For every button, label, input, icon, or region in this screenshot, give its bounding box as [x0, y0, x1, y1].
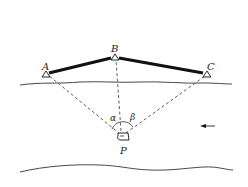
- baseline-bc: [119, 58, 203, 73]
- observer-label-p: P: [119, 145, 127, 156]
- sight-line-pc: [126, 76, 205, 133]
- station-label-c: C: [207, 61, 215, 72]
- station-label-b: B: [110, 43, 118, 54]
- sight-lines: [48, 60, 205, 134]
- lower-riverbank: [20, 165, 233, 172]
- sight-line-pa: [48, 75, 120, 134]
- boat-icon: [118, 133, 129, 140]
- angle-label-beta: β: [129, 112, 135, 122]
- station-markers: [42, 54, 211, 77]
- angle-label-alpha: α: [110, 113, 116, 123]
- upper-riverbank: [20, 82, 232, 85]
- sight-line-pb: [116, 60, 121, 131]
- baseline-ab: [49, 58, 111, 73]
- triangle-icon: [111, 54, 119, 60]
- survey-diagram: A B C α β P: [0, 0, 248, 187]
- baselines: [49, 58, 203, 73]
- station-label-a: A: [41, 61, 49, 72]
- flow-arrow-icon: [200, 124, 215, 128]
